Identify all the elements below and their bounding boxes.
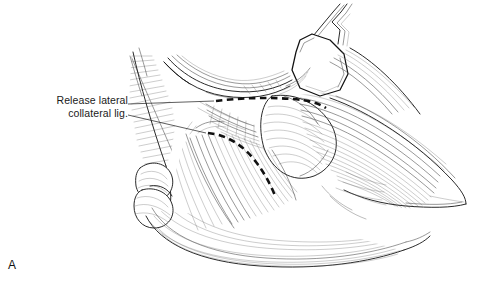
- annotation-label: Release lateral collateral lig.: [18, 94, 128, 119]
- figure-container: .ln { fill:none; stroke:#2b2b2b; stroke-…: [0, 0, 497, 292]
- olecranon-bone-prominence: [134, 163, 173, 228]
- figure-letter: A: [8, 258, 16, 272]
- annotation-label-line-2: collateral lig.: [18, 107, 128, 120]
- annotation-label-line-1: Release lateral: [18, 94, 128, 107]
- surgical-illustration-artwork: .ln { fill:none; stroke:#2b2b2b; stroke-…: [0, 0, 497, 292]
